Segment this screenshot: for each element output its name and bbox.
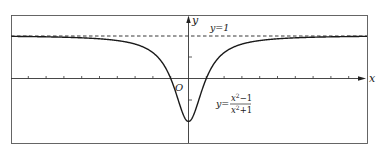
asymptote-label: y=1 [209, 22, 229, 33]
formula-numerator: x2−1 [231, 92, 252, 103]
plot-frame [12, 16, 368, 144]
function-graph: y x O y=1 y= x2−1 x2+1 [0, 0, 380, 158]
y-axis-arrow-icon [186, 16, 190, 24]
formula-denominator: x2+1 [231, 104, 252, 115]
origin-label: O [175, 82, 183, 93]
formula-lhs: y= [215, 98, 229, 109]
x-axis-label: x [369, 72, 376, 85]
y-axis-label: y [191, 14, 199, 27]
x-axis-arrow-icon [358, 76, 366, 80]
function-formula: y= x2−1 x2+1 [215, 92, 252, 115]
